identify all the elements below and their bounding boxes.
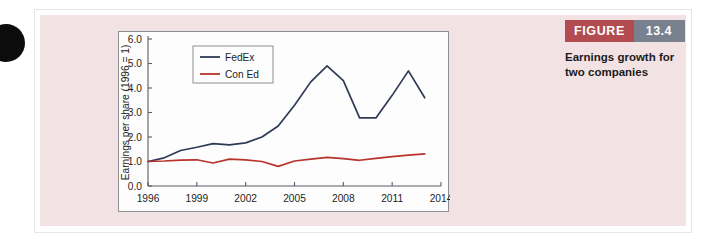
x-axis: 1996199920022005200820112014	[137, 182, 450, 204]
figure-badge-word-label: FIGURE	[565, 20, 634, 42]
chart-plot-panel: 0.01.02.03.04.05.06.0 199619992002200520…	[118, 31, 449, 212]
svg-text:2014: 2014	[430, 193, 450, 204]
y-axis: 0.01.02.03.04.05.06.0	[128, 34, 152, 192]
figure-caption: Earnings growth for two companies	[565, 50, 687, 80]
chart-legend: FedExCon Ed	[193, 46, 273, 83]
svg-text:1996: 1996	[137, 193, 160, 204]
svg-text:2002: 2002	[234, 193, 257, 204]
figure-badge: FIGURE 13.4	[565, 20, 685, 42]
svg-text:6.0: 6.0	[128, 34, 142, 45]
svg-text:FedEx: FedEx	[225, 52, 254, 63]
y-axis-title: Earnings per share (1996 = 1)	[120, 45, 131, 181]
earnings-growth-line-chart: 0.01.02.03.04.05.06.0 199619992002200520…	[119, 32, 450, 213]
svg-text:0.0: 0.0	[128, 181, 142, 192]
svg-text:2011: 2011	[381, 193, 403, 204]
svg-text:Earnings per share (1996 = 1): Earnings per share (1996 = 1)	[120, 45, 131, 181]
svg-text:Con Ed: Con Ed	[225, 69, 259, 80]
chart-series-group	[148, 66, 425, 166]
page-marker-dot	[0, 24, 25, 62]
svg-text:2008: 2008	[332, 193, 355, 204]
svg-text:1999: 1999	[185, 193, 208, 204]
figure-badge-number-label: 13.4	[634, 20, 685, 42]
svg-text:2005: 2005	[283, 193, 306, 204]
